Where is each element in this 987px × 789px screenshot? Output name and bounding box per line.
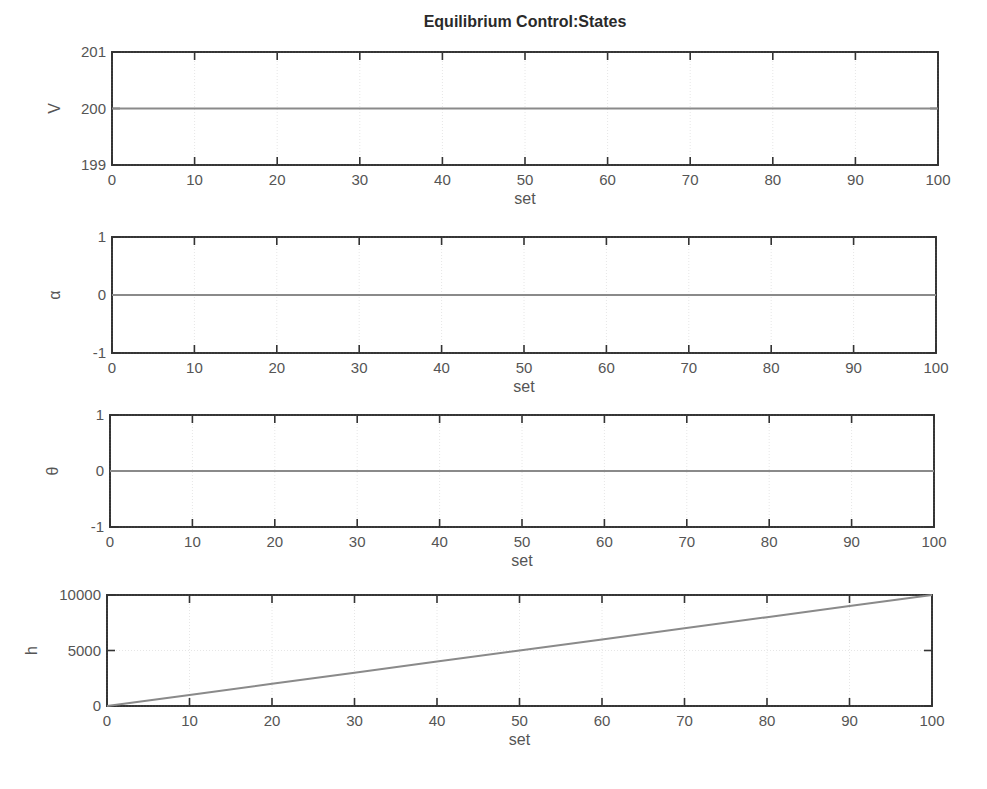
- x-tick-label: 10: [181, 712, 198, 729]
- subplot-3: 0102030405060708090100-101setθ: [44, 406, 947, 569]
- x-tick-label: 20: [268, 359, 285, 376]
- figure-title: Equilibrium Control:States: [424, 13, 627, 30]
- x-tick-label: 0: [106, 533, 114, 550]
- x-tick-label: 20: [266, 533, 283, 550]
- subplots: 0102030405060708090100199200201setV01020…: [23, 43, 951, 748]
- y-tick-label: 199: [81, 156, 106, 173]
- x-tick-label: 70: [682, 171, 699, 188]
- x-tick-label: 30: [349, 533, 366, 550]
- y-axis-label: h: [23, 646, 40, 655]
- x-tick-label: 60: [596, 533, 613, 550]
- x-tick-label: 50: [516, 359, 533, 376]
- x-axis-label: set: [513, 378, 535, 395]
- y-tick-label: 0: [93, 697, 101, 714]
- x-tick-label: 80: [761, 533, 778, 550]
- x-tick-label: 0: [108, 359, 116, 376]
- x-axis-label: set: [511, 552, 533, 569]
- x-tick-label: 40: [434, 171, 451, 188]
- x-tick-label: 30: [346, 712, 363, 729]
- x-tick-label: 60: [598, 359, 615, 376]
- x-tick-label: 60: [599, 171, 616, 188]
- x-tick-label: 50: [511, 712, 528, 729]
- x-tick-label: 80: [763, 359, 780, 376]
- x-axis-label: set: [514, 190, 536, 207]
- x-tick-label: 50: [517, 171, 534, 188]
- y-tick-label: 1: [98, 228, 106, 245]
- y-axis-label: α: [46, 290, 63, 299]
- x-tick-label: 50: [514, 533, 531, 550]
- x-tick-label: 40: [433, 359, 450, 376]
- subplot-4: 01020304050607080901000500010000seth: [23, 586, 945, 748]
- x-tick-label: 40: [431, 533, 448, 550]
- x-tick-label: 40: [429, 712, 446, 729]
- x-tick-label: 0: [108, 171, 116, 188]
- y-tick-label: -1: [93, 344, 106, 361]
- y-tick-label: 1: [96, 406, 104, 423]
- x-tick-label: 90: [847, 171, 864, 188]
- x-tick-label: 60: [594, 712, 611, 729]
- subplot-1: 0102030405060708090100199200201setV: [46, 43, 951, 207]
- x-tick-label: 70: [676, 712, 693, 729]
- y-tick-label: 201: [81, 43, 106, 60]
- x-tick-label: 70: [678, 533, 695, 550]
- y-tick-label: 200: [81, 100, 106, 117]
- subplot-2: 0102030405060708090100-101setα: [46, 228, 949, 395]
- x-tick-label: 90: [841, 712, 858, 729]
- x-tick-label: 10: [186, 359, 203, 376]
- y-axis-label: θ: [44, 466, 61, 475]
- x-tick-label: 20: [264, 712, 281, 729]
- y-axis-label: V: [46, 103, 63, 114]
- x-tick-label: 10: [186, 171, 203, 188]
- x-tick-label: 10: [184, 533, 201, 550]
- y-tick-label: 10000: [59, 586, 101, 603]
- x-tick-label: 80: [759, 712, 776, 729]
- x-tick-label: 100: [925, 171, 950, 188]
- x-tick-label: 100: [923, 359, 948, 376]
- x-tick-label: 100: [919, 712, 944, 729]
- y-tick-label: -1: [91, 518, 104, 535]
- y-tick-label: 0: [98, 286, 106, 303]
- figure: Equilibrium Control:States 0102030405060…: [0, 0, 987, 789]
- x-tick-label: 30: [351, 359, 368, 376]
- x-tick-label: 70: [680, 359, 697, 376]
- x-axis-label: set: [509, 731, 531, 748]
- x-tick-label: 20: [269, 171, 286, 188]
- x-tick-label: 90: [843, 533, 860, 550]
- y-tick-label: 0: [96, 462, 104, 479]
- x-tick-label: 90: [845, 359, 862, 376]
- x-tick-label: 30: [351, 171, 368, 188]
- x-tick-label: 80: [764, 171, 781, 188]
- x-tick-label: 100: [921, 533, 946, 550]
- y-tick-label: 5000: [68, 642, 101, 659]
- x-tick-label: 0: [103, 712, 111, 729]
